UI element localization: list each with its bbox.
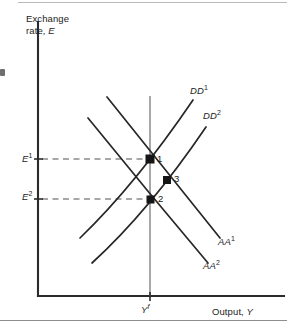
y-tick-label-e1-sup: 1 bbox=[28, 152, 32, 159]
equilibrium-point-3 bbox=[163, 176, 171, 184]
curve-label-aa2-sup: 2 bbox=[216, 259, 220, 266]
curve-label-dd2-var: DD bbox=[203, 110, 217, 121]
y-tick-label-e2-sup: 2 bbox=[28, 190, 32, 197]
y-axis-label-variable: E bbox=[48, 25, 54, 36]
curve-label-aa2-var: AA bbox=[203, 260, 216, 271]
y-tick-label-e2: E2 bbox=[22, 191, 32, 203]
x-tick-label-yf-sup: f bbox=[147, 303, 149, 310]
curve-label-dd1: DD1 bbox=[190, 85, 208, 97]
curve-label-dd1-sup: 1 bbox=[204, 84, 208, 91]
figure-bottom-divider bbox=[0, 320, 287, 321]
y-axis-label: Exchange rate, E bbox=[26, 13, 69, 36]
curve-label-dd2-sup: 2 bbox=[217, 109, 221, 116]
x-axis-label: Output, Y bbox=[212, 306, 253, 318]
curve-label-aa1: AA1 bbox=[218, 236, 235, 248]
curve-label-dd1-var: DD bbox=[190, 85, 204, 96]
equilibrium-point-1 bbox=[146, 155, 155, 164]
curve-dd2 bbox=[92, 127, 206, 263]
y-axis-label-line2-text: rate, bbox=[26, 25, 48, 36]
curve-label-aa2: AA2 bbox=[203, 260, 220, 272]
y-tick-label-e1: E1 bbox=[22, 153, 32, 165]
diagram-canvas bbox=[0, 0, 287, 332]
x-tick-label-yf: Yf bbox=[141, 304, 149, 316]
equilibrium-point-2 bbox=[147, 196, 155, 204]
figure-container: Exchange rate, E Output, Y E1 E2 Yf DD1 … bbox=[0, 0, 287, 332]
curve-label-aa1-var: AA bbox=[218, 236, 231, 247]
curve-label-dd2: DD2 bbox=[203, 110, 221, 122]
y-axis-label-line1: Exchange bbox=[26, 13, 69, 24]
equilibrium-label-2: 2 bbox=[158, 193, 163, 205]
equilibrium-label-1: 1 bbox=[157, 153, 162, 165]
curve-label-aa1-sup: 1 bbox=[231, 235, 235, 242]
equilibrium-label-3: 3 bbox=[174, 173, 179, 185]
x-axis-label-variable: Y bbox=[247, 306, 253, 317]
x-axis-label-text: Output, bbox=[212, 306, 247, 317]
curve-aa2 bbox=[88, 118, 208, 263]
